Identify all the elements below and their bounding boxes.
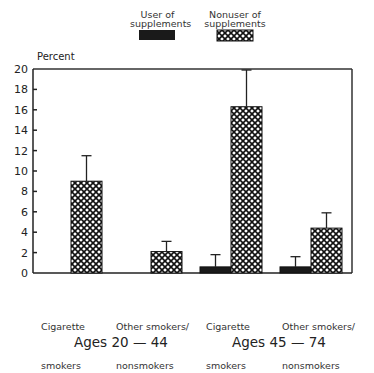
y-tick-label: 18 <box>14 83 28 96</box>
y-tick-label: 20 <box>14 63 28 76</box>
bar-nonuser <box>311 228 342 273</box>
legend-nonuser-swatch <box>217 30 253 41</box>
y-tick-label: 6 <box>21 206 28 219</box>
bar-nonuser <box>151 252 182 273</box>
category-2-line2: nonsmokers <box>116 359 189 372</box>
legend-user-swatch <box>139 30 175 40</box>
y-tick-label: 0 <box>21 267 28 280</box>
category-3-line1: Cigarette <box>206 320 250 333</box>
y-tick-label: 16 <box>14 104 28 117</box>
y-tick-label: 10 <box>14 165 28 178</box>
bar-user <box>280 267 311 273</box>
y-tick-label: 4 <box>21 226 28 239</box>
y-tick-label: 12 <box>14 145 28 158</box>
bars <box>71 70 342 273</box>
y-tick-label: 8 <box>21 185 28 198</box>
bar-user <box>200 267 231 273</box>
category-3-line2: smokers <box>206 359 250 372</box>
category-4-line2: nonsmokers <box>282 359 355 372</box>
category-1-line2: smokers <box>41 359 85 372</box>
y-tick-label: 14 <box>14 124 28 137</box>
bar-nonuser <box>231 107 262 273</box>
group-label-ages-20-44: Ages 20 — 44 <box>74 334 168 350</box>
y-axis-label: Percent <box>37 51 75 62</box>
bar-nonuser <box>71 181 102 273</box>
category-1-line1: Cigarette <box>41 320 85 333</box>
group-label-ages-45-74: Ages 45 — 74 <box>232 334 326 350</box>
category-4-line1: Other smokers/ <box>282 320 355 333</box>
y-tick-label: 2 <box>21 247 28 260</box>
category-2-line1: Other smokers/ <box>116 320 189 333</box>
